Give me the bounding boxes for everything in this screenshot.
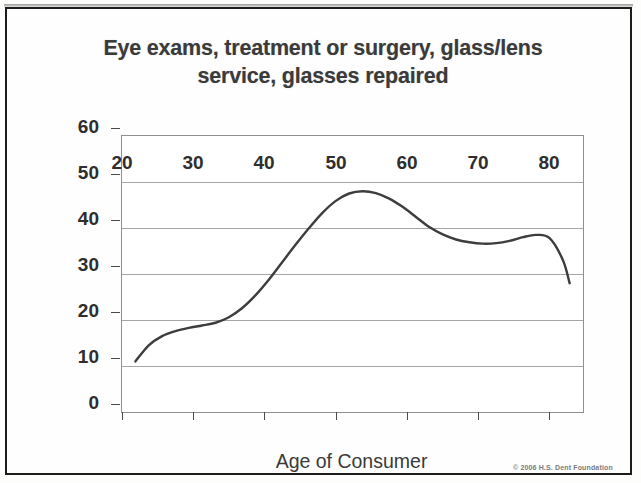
x-tick-label-40: 40 xyxy=(239,152,289,174)
slide-canvas: Eye exams, treatment or surgery, glass/l… xyxy=(0,0,641,483)
expenditure-curve-path xyxy=(135,191,569,361)
y-tick-mark-10 xyxy=(111,358,120,359)
x-tick-label-80: 80 xyxy=(524,152,574,174)
x-tick-mark-70 xyxy=(478,412,479,420)
y-tick-label-10: 10 xyxy=(59,346,99,368)
y-tick-mark-40 xyxy=(111,220,120,221)
y-tick-label-20: 20 xyxy=(59,300,99,322)
y-tick-label-50: 50 xyxy=(59,162,99,184)
copyright-notice: © 2006 H.S. Dent Foundation xyxy=(513,464,613,471)
chart-title-line-2: service, glasses repaired xyxy=(198,64,449,88)
y-tick-mark-30 xyxy=(111,266,120,267)
y-tick-label-30: 30 xyxy=(59,254,99,276)
y-tick-mark-60 xyxy=(111,128,120,129)
y-tick-mark-50 xyxy=(111,174,120,175)
x-tick-mark-50 xyxy=(336,412,337,420)
x-tick-mark-60 xyxy=(407,412,408,420)
x-tick-label-50: 50 xyxy=(311,152,361,174)
y-tick-label-40: 40 xyxy=(59,208,99,230)
x-tick-label-70: 70 xyxy=(453,152,503,174)
plot-area: 20 30 40 50 60 70 80 xyxy=(121,135,584,413)
y-tick-mark-20 xyxy=(111,312,120,313)
y-tick-label-60: 60 xyxy=(59,116,99,138)
x-tick-label-60: 60 xyxy=(382,152,432,174)
chart-title-line-1: Eye exams, treatment or surgery, glass/l… xyxy=(103,36,542,60)
slide-frame-border: Eye exams, treatment or surgery, glass/l… xyxy=(5,7,632,475)
x-tick-mark-40 xyxy=(264,412,265,420)
x-tick-mark-80 xyxy=(549,412,550,420)
x-tick-mark-20 xyxy=(122,412,123,420)
y-tick-label-0: 0 xyxy=(59,392,99,414)
expenditure-line-series xyxy=(122,136,583,412)
x-tick-label-30: 30 xyxy=(168,152,218,174)
chart-title: Eye exams, treatment or surgery, glass/l… xyxy=(47,34,599,90)
y-tick-mark-0 xyxy=(111,404,120,405)
x-tick-label-20: 20 xyxy=(97,152,147,174)
x-tick-mark-30 xyxy=(193,412,194,420)
